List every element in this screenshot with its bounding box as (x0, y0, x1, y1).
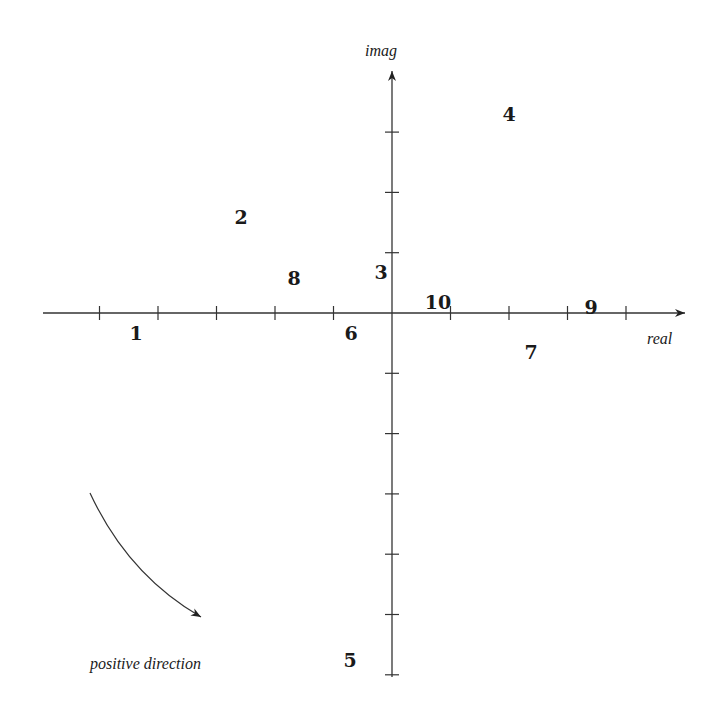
point-labels: 12345678910 (129, 103, 597, 671)
point-label-3: 3 (374, 261, 387, 283)
point-label-9: 9 (584, 296, 597, 318)
point-label-10: 10 (425, 291, 451, 313)
point-label-8: 8 (287, 267, 300, 289)
point-label-7: 7 (524, 341, 537, 363)
point-label-6: 6 (344, 322, 357, 344)
point-label-2: 2 (234, 206, 247, 228)
positive-direction-label: positive direction (89, 655, 201, 673)
point-label-4: 4 (502, 103, 515, 125)
positive-direction-arrow-icon (90, 493, 201, 617)
complex-plane-diagram: real imag 12345678910 positive direction (0, 0, 725, 719)
real-axis-label: real (647, 330, 673, 347)
imag-axis-label: imag (365, 42, 397, 60)
axes (43, 71, 685, 677)
point-label-5: 5 (343, 649, 356, 671)
point-label-1: 1 (129, 322, 142, 344)
